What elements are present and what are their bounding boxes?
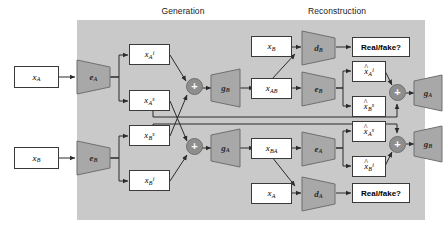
input-xb-label: xB bbox=[33, 153, 41, 163]
encoder-eb-label: eB bbox=[89, 153, 97, 163]
code-box-xb-s: xBs bbox=[129, 125, 170, 146]
diagram-canvas: Generation Reconstruction bbox=[0, 0, 448, 240]
generator-gb-reconstruction: gB bbox=[413, 125, 443, 163]
merge-plus-symbol: + bbox=[394, 87, 400, 98]
merge-node-reconstruction-bottom: + bbox=[389, 136, 406, 153]
code-box-xhat-b-s: x^Bs bbox=[352, 96, 386, 117]
code-xhat-a-i-label: x^Ai bbox=[364, 66, 374, 76]
code-box-xhat-a-s: x^As bbox=[352, 121, 386, 142]
code-xa-s-label: xAs bbox=[144, 95, 154, 105]
generator-gb-label: gB bbox=[424, 139, 433, 149]
answer-box-top: Real/fake? bbox=[352, 37, 410, 57]
input-box-xb: xB bbox=[14, 147, 59, 169]
generator-ga-label: gA bbox=[221, 143, 230, 153]
code-box-xhat-b-i: x^Bi bbox=[352, 156, 386, 177]
discriminator-da-label: dA bbox=[314, 189, 323, 199]
code-box-xa-s: xAs bbox=[129, 90, 170, 111]
middle-box-xb-real: xB bbox=[251, 36, 292, 57]
middle-box-xab: xAB bbox=[251, 78, 292, 99]
encoder-ea-generation: eA bbox=[76, 59, 111, 95]
generator-ga-generation: gA bbox=[210, 128, 241, 168]
code-box-xa-i: xAi bbox=[129, 44, 170, 65]
encoder-ea-label: eA bbox=[89, 72, 97, 82]
encoder-eb-reconstruction: eB bbox=[301, 71, 336, 107]
middle-box-xa-real: xA bbox=[251, 183, 292, 204]
code-xb-i-label: xBi bbox=[145, 175, 155, 185]
merge-node-reconstruction-top: + bbox=[389, 84, 406, 101]
merge-plus-symbol: + bbox=[394, 139, 400, 150]
code-xb-s-label: xBs bbox=[144, 130, 154, 140]
code-xhat-b-s-label: x^Bs bbox=[364, 101, 374, 111]
discriminator-da: dA bbox=[301, 176, 336, 212]
generator-gb-generation: gB bbox=[210, 68, 241, 108]
encoder-eb-generation: eB bbox=[76, 140, 111, 176]
middle-box-xba: xBA bbox=[251, 138, 292, 159]
code-xa-i-label: xAi bbox=[145, 49, 155, 59]
code-xhat-b-i-label: x^Bi bbox=[364, 161, 374, 171]
encoder-ea-label: eA bbox=[314, 144, 322, 154]
encoder-ea-reconstruction: eA bbox=[301, 131, 336, 167]
generator-ga-label: gA bbox=[424, 88, 433, 98]
input-box-xa: xA bbox=[14, 66, 59, 88]
code-box-xb-i: xBi bbox=[129, 170, 170, 191]
merge-plus-symbol: + bbox=[191, 141, 197, 152]
encoder-eb-label: eB bbox=[314, 84, 322, 94]
merge-node-generation-top: + bbox=[186, 78, 203, 95]
discriminator-db-label: dB bbox=[314, 43, 323, 53]
input-xa-label: xA bbox=[33, 72, 41, 82]
middle-xab-label: xAB bbox=[266, 83, 278, 93]
code-xhat-a-s-label: x^As bbox=[364, 126, 374, 136]
discriminator-db: dB bbox=[301, 30, 336, 66]
middle-xa-label: xA bbox=[268, 188, 276, 198]
middle-xb-label: xB bbox=[268, 41, 276, 51]
middle-xba-label: xBA bbox=[266, 143, 278, 153]
merge-node-generation-bottom: + bbox=[186, 138, 203, 155]
generator-gb-label: gB bbox=[221, 83, 230, 93]
connector-layer bbox=[0, 0, 448, 240]
code-box-xhat-a-i: x^Ai bbox=[352, 61, 386, 82]
generator-ga-reconstruction: gA bbox=[413, 74, 443, 112]
merge-plus-symbol: + bbox=[191, 81, 197, 92]
answer-box-bottom: Real/fake? bbox=[352, 183, 410, 203]
